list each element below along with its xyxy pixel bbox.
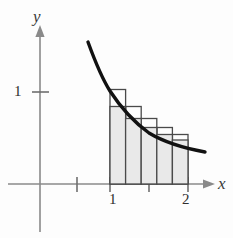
x-axis-arrow [203, 179, 215, 188]
lower-rect-2 [126, 119, 142, 185]
riemann-sum-figure: y x 1 1 2 [0, 0, 233, 238]
x-tick-label-2: 2 [182, 192, 190, 207]
x-tick-label-1: 1 [109, 192, 117, 207]
plot-canvas [0, 0, 233, 238]
y-axis-label: y [33, 8, 41, 25]
axes-group [8, 32, 207, 232]
lower-rect-1 [110, 107, 126, 185]
y-axis-arrow [35, 25, 44, 37]
x-axis-label: x [218, 175, 226, 192]
y-tick-label-1: 1 [14, 84, 22, 99]
